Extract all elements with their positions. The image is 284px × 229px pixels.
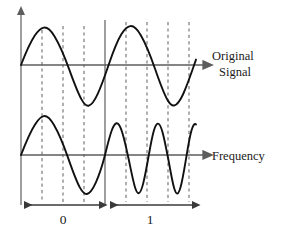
label-original-line2: Signal <box>219 65 251 79</box>
fsk-diagram: Original Signal Frequency 0 1 <box>0 0 284 229</box>
bit-label-0: 0 <box>60 212 67 227</box>
label-frequency: Frequency <box>212 149 266 163</box>
label-original-line1: Original <box>212 49 254 63</box>
fsk-figure-container: Original Signal Frequency 0 1 <box>0 0 284 229</box>
bit-label-1: 1 <box>147 212 154 227</box>
